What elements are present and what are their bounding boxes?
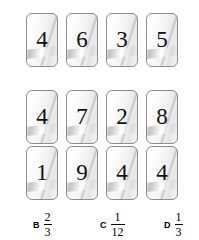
- card-digit: 4: [147, 161, 177, 184]
- card-digit: 4: [27, 28, 57, 51]
- number-card[interactable]: 3: [106, 13, 138, 67]
- fraction-denominator: 12: [111, 226, 125, 238]
- card-row: 1 9 4 4: [26, 146, 178, 200]
- fraction-denominator: 3: [44, 226, 52, 238]
- fraction-numerator: 1: [111, 211, 125, 223]
- problem-figure: 4 6 3 5 4 7 2 8 1 9 4: [0, 0, 199, 240]
- choice-fraction: 1 3: [175, 211, 183, 238]
- choice-letter: B: [33, 220, 40, 230]
- number-card[interactable]: 8: [146, 90, 178, 144]
- answer-choices: B 2 3 C 1 12 D 1 3: [0, 211, 199, 240]
- answer-choice-b[interactable]: B 2 3: [33, 211, 52, 240]
- fraction-numerator: 2: [44, 211, 52, 223]
- number-card[interactable]: 4: [26, 90, 58, 144]
- number-card[interactable]: 5: [146, 13, 178, 67]
- card-digit: 4: [27, 105, 57, 128]
- card-digit: 5: [147, 28, 177, 51]
- card-digit: 6: [67, 28, 97, 51]
- choice-fraction: 1 12: [111, 211, 125, 238]
- card-digit: 4: [107, 161, 137, 184]
- card-digit: 3: [107, 28, 137, 51]
- choice-letter: C: [100, 220, 107, 230]
- number-card[interactable]: 4: [146, 146, 178, 200]
- number-card[interactable]: 4: [26, 13, 58, 67]
- number-card[interactable]: 9: [66, 146, 98, 200]
- answer-choice-c[interactable]: C 1 12: [100, 211, 125, 240]
- card-digit: 9: [67, 161, 97, 184]
- card-row: 4 7 2 8: [26, 90, 178, 144]
- fraction-numerator: 1: [175, 211, 183, 223]
- card-digit: 8: [147, 105, 177, 128]
- card-digit: 1: [27, 161, 57, 184]
- number-card[interactable]: 6: [66, 13, 98, 67]
- number-card[interactable]: 1: [26, 146, 58, 200]
- answer-choice-d[interactable]: D 1 3: [164, 211, 183, 240]
- card-digit: 2: [107, 105, 137, 128]
- fraction-denominator: 3: [175, 226, 183, 238]
- number-card[interactable]: 2: [106, 90, 138, 144]
- number-card[interactable]: 4: [106, 146, 138, 200]
- number-card[interactable]: 7: [66, 90, 98, 144]
- card-row: 4 6 3 5: [26, 13, 178, 67]
- choice-fraction: 2 3: [44, 211, 52, 238]
- choice-letter: D: [164, 220, 171, 230]
- card-digit: 7: [67, 105, 97, 128]
